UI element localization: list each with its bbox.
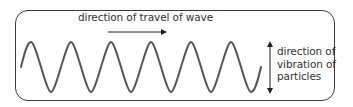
travel-direction-label: direction of travel of wave bbox=[78, 11, 213, 23]
vibration-label-line-3: particles bbox=[277, 70, 336, 83]
vibration-label-line-1: direction of bbox=[277, 45, 336, 58]
transverse-wave bbox=[21, 42, 261, 92]
vibration-direction-arrow bbox=[267, 41, 273, 94]
vibration-direction-label: direction of vibration of particles bbox=[277, 45, 336, 83]
vibration-label-line-2: vibration of bbox=[277, 58, 336, 71]
